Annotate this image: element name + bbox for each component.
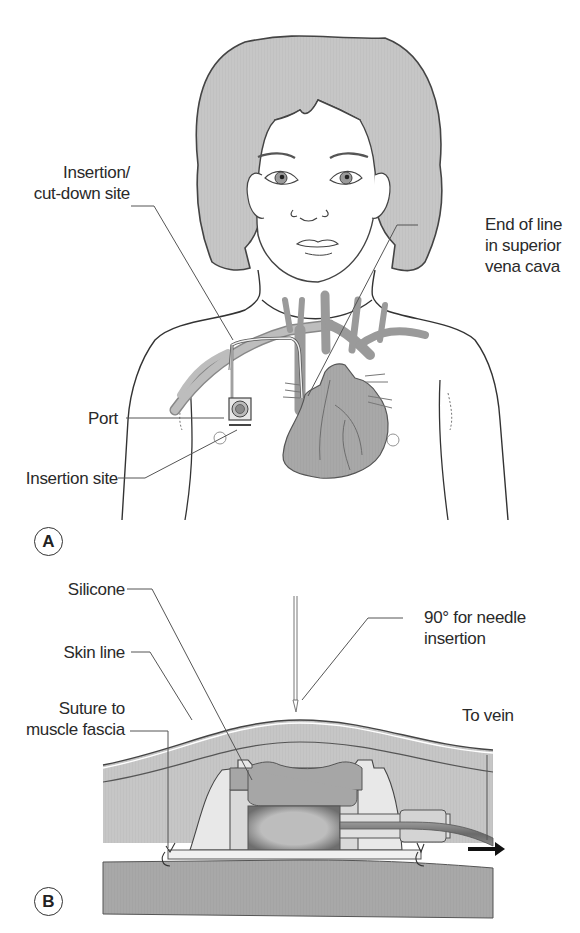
label-to-vein: To vein: [462, 705, 514, 726]
direction-arrow: [468, 842, 505, 856]
panel-badge-b: B: [34, 887, 63, 916]
label-port: Port: [88, 408, 118, 429]
port-device: [229, 398, 251, 425]
label-insertion-cutdown-site: Insertion/ cut-down site: [34, 162, 130, 204]
label-suture-to-fascia: Suture to muscle fascia: [26, 698, 125, 740]
muscle-layer: [103, 860, 493, 918]
face: [257, 100, 376, 282]
port-diagram: [0, 0, 580, 933]
needle: [293, 596, 298, 712]
panel-a-illustration: [118, 36, 508, 520]
reservoir: [248, 806, 340, 851]
label-insertion-site: Insertion site: [26, 468, 118, 489]
panel-badge-a: A: [34, 527, 63, 556]
label-needle-angle: 90° for needle insertion: [424, 607, 526, 649]
label-skin-line: Skin line: [63, 642, 125, 663]
label-silicone: Silicone: [68, 579, 125, 600]
label-end-of-line-svc: End of line in superior vena cava: [485, 214, 562, 277]
base-plate: [168, 850, 421, 859]
